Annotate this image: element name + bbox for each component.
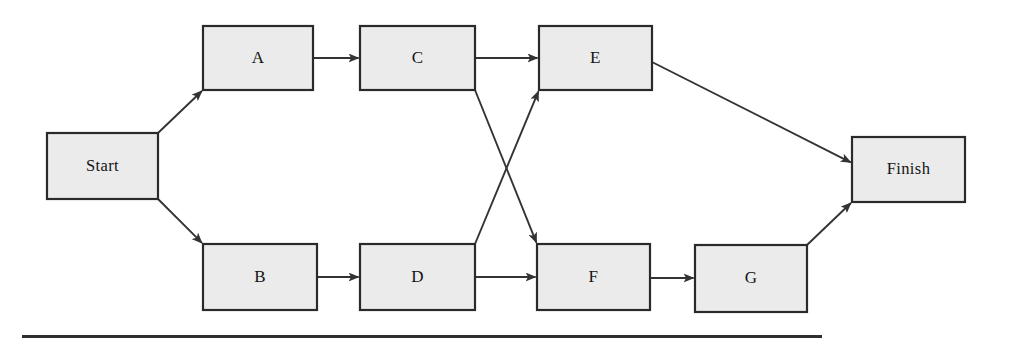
- node-g[interactable]: G: [695, 245, 807, 312]
- network-diagram: StartACEBDFGFinish: [0, 0, 1015, 345]
- edge-start-a: [158, 91, 202, 133]
- node-label-start: Start: [86, 156, 119, 175]
- flowchart-canvas: StartACEBDFGFinish: [0, 0, 1015, 345]
- edge-g-finish: [807, 203, 851, 245]
- edge-e-finish: [652, 62, 851, 162]
- node-c[interactable]: C: [360, 26, 475, 90]
- node-finish[interactable]: Finish: [852, 137, 965, 202]
- node-label-finish: Finish: [887, 159, 931, 178]
- node-e[interactable]: E: [539, 26, 652, 90]
- node-f[interactable]: F: [537, 244, 650, 310]
- node-label-d: D: [411, 267, 424, 286]
- node-label-g: G: [745, 268, 758, 287]
- edge-start-b: [158, 199, 202, 243]
- node-label-e: E: [590, 48, 601, 67]
- node-b[interactable]: B: [203, 244, 317, 310]
- node-d[interactable]: D: [360, 244, 475, 310]
- node-label-f: F: [589, 267, 599, 286]
- page-rule: [22, 335, 822, 338]
- node-label-b: B: [254, 267, 266, 286]
- node-label-a: A: [252, 48, 265, 67]
- node-a[interactable]: A: [203, 26, 313, 90]
- node-label-c: C: [412, 48, 424, 67]
- node-start[interactable]: Start: [47, 133, 158, 199]
